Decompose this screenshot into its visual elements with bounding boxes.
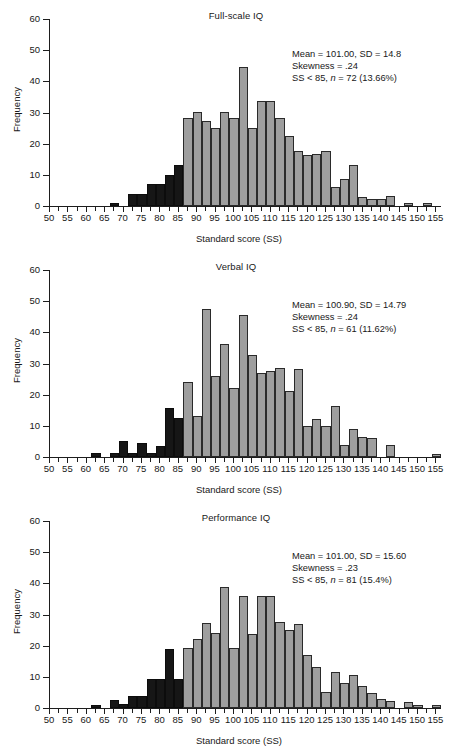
x-tick-label: 130 — [336, 463, 352, 474]
iq-histograms-figure: Full-scale IQFrequencyStandard score (SS… — [0, 0, 454, 753]
y-tick-label: 20 — [29, 389, 40, 400]
x-tick-minor — [297, 709, 298, 713]
x-tick-minor — [77, 709, 78, 713]
x-axis-label: Standard score (SS) — [34, 484, 444, 495]
annotation-skewness: Skewness = .24 — [292, 311, 406, 323]
x-tick-minor — [316, 458, 317, 462]
histogram-bar — [202, 309, 211, 457]
histogram-bar — [110, 203, 119, 206]
x-tick-label: 70 — [117, 463, 128, 474]
histogram-bar — [211, 633, 220, 708]
x-tick-minor — [371, 458, 372, 462]
x-tick-label: 155 — [428, 463, 444, 474]
x-tick-label: 150 — [409, 463, 425, 474]
histogram-bar — [202, 121, 211, 206]
annotation-below-85-prefix: SS < 85, — [292, 324, 331, 334]
x-tick-minor — [187, 458, 188, 462]
y-tick-label: 50 — [29, 546, 40, 557]
x-tick-minor — [389, 709, 390, 713]
y-tick-label: 0 — [35, 451, 40, 462]
histogram-bar — [257, 373, 266, 457]
x-tick-label: 55 — [62, 212, 73, 223]
x-axis-label: Standard score (SS) — [34, 735, 444, 746]
histogram-bar — [91, 453, 100, 457]
y-tick-label: 20 — [29, 640, 40, 651]
x-tick-minor — [371, 709, 372, 713]
histogram-bar — [193, 639, 202, 708]
histogram-bar — [110, 700, 119, 708]
x-tick-label: 125 — [317, 714, 333, 725]
histogram-bar — [303, 655, 312, 708]
histogram-bar — [285, 630, 294, 708]
histogram-bar — [128, 696, 137, 708]
x-tick-label: 65 — [99, 714, 110, 725]
x-tick-minor — [113, 709, 114, 713]
histogram-bar — [321, 426, 330, 457]
x-tick-label: 115 — [281, 714, 296, 725]
x-tick-label: 65 — [99, 463, 110, 474]
annotation-below-85: SS < 85, n = 72 (13.66%) — [292, 72, 401, 84]
histogram-bar — [91, 705, 100, 708]
x-tick-label: 120 — [299, 212, 315, 223]
x-tick-label: 90 — [191, 212, 202, 223]
x-tick-minor — [224, 207, 225, 211]
chart-panel-verbal-iq: Verbal IQFrequencyStandard score (SS)010… — [0, 251, 454, 502]
y-tick-label: 50 — [29, 295, 40, 306]
x-tick-minor — [132, 709, 133, 713]
x-tick-label: 60 — [81, 463, 92, 474]
y-tick-label: 10 — [29, 169, 40, 180]
x-tick-label: 85 — [173, 714, 184, 725]
x-tick-minor — [58, 458, 59, 462]
x-tick-minor — [224, 709, 225, 713]
x-tick-label: 150 — [409, 714, 425, 725]
histogram-bar — [266, 596, 275, 708]
histogram-bar — [312, 154, 321, 206]
y-tick-label: 30 — [29, 107, 40, 118]
x-tick-label: 135 — [354, 714, 370, 725]
histogram-bar — [211, 376, 220, 457]
x-tick-minor — [242, 207, 243, 211]
x-tick-label: 110 — [262, 212, 277, 223]
stats-annotation: Mean = 100.90, SD = 14.79Skewness = .24S… — [292, 299, 406, 336]
x-tick-minor — [353, 207, 354, 211]
x-axis-line — [49, 457, 441, 458]
y-tick-label: 60 — [29, 264, 40, 275]
x-tick-minor — [408, 207, 409, 211]
x-tick-minor — [242, 458, 243, 462]
histogram-bar — [349, 675, 358, 708]
x-tick-label: 55 — [62, 714, 73, 725]
histogram-bar — [367, 199, 376, 206]
x-tick-label: 110 — [262, 714, 277, 725]
x-tick-minor — [205, 458, 206, 462]
x-tick-minor — [426, 458, 427, 462]
x-tick-minor — [150, 458, 151, 462]
annotation-mean-sd: Mean = 101.00, SD = 14.8 — [292, 48, 401, 60]
x-tick-minor — [426, 709, 427, 713]
histogram-bar — [294, 151, 303, 206]
histogram-bar — [229, 648, 238, 708]
x-tick-label: 145 — [391, 714, 407, 725]
x-tick-label: 155 — [428, 212, 444, 223]
histogram-bar — [303, 155, 312, 206]
histogram-bar — [183, 648, 192, 708]
histogram-bar — [404, 203, 413, 206]
x-tick-minor — [389, 458, 390, 462]
histogram-bar — [358, 437, 367, 457]
x-tick-minor — [205, 709, 206, 713]
histogram-bar — [211, 128, 220, 206]
histogram-bar — [239, 596, 248, 708]
x-tick-minor — [353, 709, 354, 713]
histogram-bar — [340, 179, 349, 206]
annotation-skewness: Skewness = .23 — [292, 562, 406, 574]
chart-panel-performance-iq: Performance IQFrequencyStandard score (S… — [0, 502, 454, 753]
histogram-bar — [285, 136, 294, 206]
x-tick-label: 85 — [173, 463, 184, 474]
x-tick-label: 90 — [191, 463, 202, 474]
histogram-bar — [147, 679, 156, 708]
histogram-bar — [358, 197, 367, 206]
x-tick-label: 80 — [154, 463, 165, 474]
x-tick-minor — [334, 709, 335, 713]
histogram-bar — [386, 701, 395, 708]
x-tick-label: 65 — [99, 212, 110, 223]
histogram-bar — [248, 634, 257, 708]
